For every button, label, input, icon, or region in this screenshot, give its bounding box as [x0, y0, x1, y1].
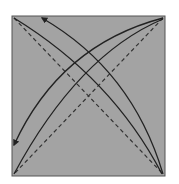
diagram-canvas — [0, 0, 179, 184]
origami-diagram — [0, 0, 179, 184]
